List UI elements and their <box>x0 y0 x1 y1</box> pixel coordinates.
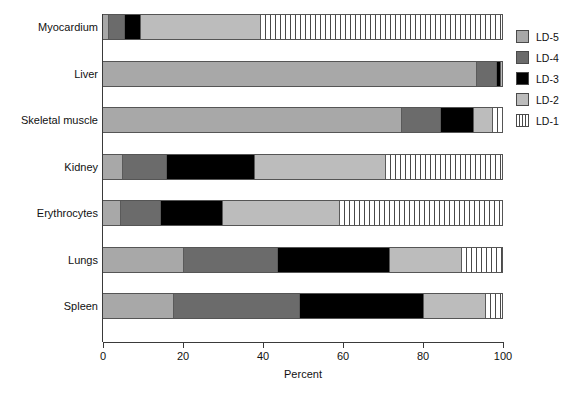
category-label-wrapper: Erythrocytes <box>0 200 98 226</box>
bar-segment-ld-5 <box>103 108 402 132</box>
bar-segment-ld-4 <box>123 155 167 179</box>
legend-label: LD-5 <box>536 31 559 43</box>
category-label-wrapper: Spleen <box>0 293 98 319</box>
x-tick-label: 80 <box>417 350 429 362</box>
category-label-wrapper: Liver <box>0 61 98 87</box>
bar-segment-ld-3 <box>125 15 141 39</box>
bar-row <box>103 61 503 87</box>
category-label: Spleen <box>2 300 98 312</box>
bar-segment-ld-2 <box>255 155 387 179</box>
category-label: Lungs <box>2 254 98 266</box>
bar-segment-ld-4 <box>402 108 441 132</box>
legend-label: LD-1 <box>536 115 559 127</box>
legend-label: LD-2 <box>536 94 559 106</box>
category-label-wrapper: Myocardium <box>0 14 98 40</box>
bar-segment-ld-4 <box>121 201 161 225</box>
legend-item-ld-2[interactable]: LD-2 <box>516 89 586 110</box>
legend-swatch-icon <box>516 51 529 64</box>
legend-swatch-icon <box>516 30 529 43</box>
stacked-bar-chart: 020406080100 Percent MyocardiumLiverSkel… <box>0 0 586 397</box>
legend-item-ld-1[interactable]: LD-1 <box>516 110 586 131</box>
legend-swatch-icon <box>516 72 529 85</box>
legend-label: LD-4 <box>536 52 559 64</box>
bar-segment-ld-1 <box>493 108 502 132</box>
category-label-wrapper: Kidney <box>0 154 98 180</box>
bar-row <box>103 107 503 133</box>
bar-segment-ld-2 <box>223 201 341 225</box>
legend-item-ld-3[interactable]: LD-3 <box>516 68 586 89</box>
bar-segment-ld-5 <box>103 294 174 318</box>
legend-item-ld-5[interactable]: LD-5 <box>516 26 586 47</box>
x-tick <box>103 343 104 348</box>
x-axis-title-text: Percent <box>264 368 322 380</box>
legend-swatch-icon <box>516 114 529 127</box>
category-label-wrapper: Skeletal muscle <box>0 107 98 133</box>
category-label: Myocardium <box>2 21 98 33</box>
bar-segment-ld-5 <box>103 62 477 86</box>
bar-segment-ld-5 <box>103 201 121 225</box>
bar-segment-ld-2 <box>390 248 462 272</box>
bar-segment-ld-3 <box>278 248 391 272</box>
x-tick <box>423 343 424 348</box>
x-tick-label: 60 <box>337 350 349 362</box>
bar-segment-ld-3 <box>441 108 474 132</box>
x-tick-label: 0 <box>100 350 106 362</box>
x-tick <box>183 343 184 348</box>
x-axis-title: Percent <box>0 368 586 380</box>
bar-segment-ld-2 <box>424 294 486 318</box>
bar-row <box>103 200 503 226</box>
x-axis-line <box>103 342 504 343</box>
bar-segment-ld-2 <box>501 62 502 86</box>
bar-segment-ld-4 <box>174 294 300 318</box>
bar-segment-ld-3 <box>300 294 424 318</box>
bar-segment-ld-5 <box>103 155 123 179</box>
bar-segment-ld-2 <box>474 108 493 132</box>
bar-segment-ld-4 <box>184 248 278 272</box>
bar-segment-ld-1 <box>261 15 502 39</box>
x-tick-label: 100 <box>494 350 512 362</box>
x-tick <box>503 343 504 348</box>
x-tick <box>263 343 264 348</box>
x-tick-label: 20 <box>177 350 189 362</box>
bar-segment-ld-3 <box>167 155 255 179</box>
bar-row <box>103 293 503 319</box>
x-tick <box>343 343 344 348</box>
legend-label: LD-3 <box>536 73 559 85</box>
category-label: Erythrocytes <box>2 207 98 219</box>
bar-row <box>103 14 503 40</box>
bar-segment-ld-1 <box>462 248 502 272</box>
bar-segment-ld-4 <box>477 62 497 86</box>
legend-item-ld-4[interactable]: LD-4 <box>516 47 586 68</box>
bar-segment-ld-1 <box>340 201 502 225</box>
bar-segment-ld-1 <box>486 294 502 318</box>
bar-row <box>103 247 503 273</box>
category-label: Skeletal muscle <box>2 114 98 126</box>
category-label: Kidney <box>2 161 98 173</box>
bar-segment-ld-1 <box>386 155 502 179</box>
legend: LD-5LD-4LD-3LD-2LD-1 <box>516 26 586 131</box>
bar-segment-ld-4 <box>109 15 125 39</box>
category-label-wrapper: Lungs <box>0 247 98 273</box>
bar-segment-ld-3 <box>161 201 223 225</box>
x-tick-label: 40 <box>257 350 269 362</box>
bar-segment-ld-5 <box>103 248 184 272</box>
category-label: Liver <box>2 68 98 80</box>
bar-row <box>103 154 503 180</box>
bar-segment-ld-2 <box>141 15 261 39</box>
legend-swatch-icon <box>516 93 529 106</box>
